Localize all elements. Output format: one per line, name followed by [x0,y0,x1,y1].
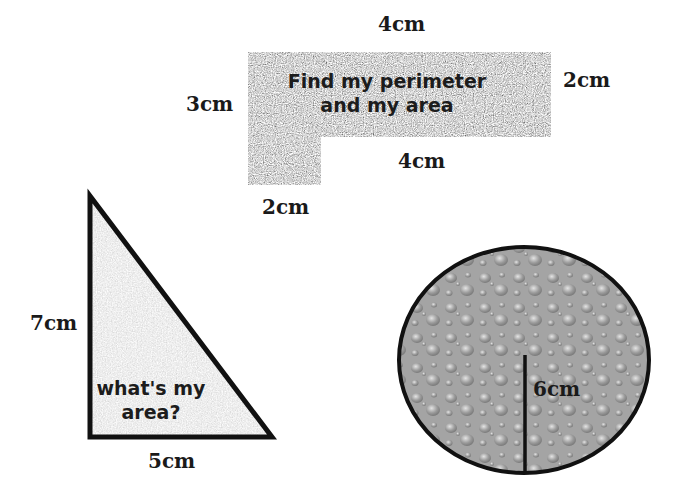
triangle-prompt: what's my area? [96,377,206,425]
circle-radius-label: 6cm [533,379,580,399]
triangle-prompt-line1: what's my [96,377,206,401]
l-shape-prompt-line2: and my area [282,94,492,118]
l-shape-inner-bottom-label: 4cm [398,151,445,171]
l-shape-right-label: 2cm [563,70,610,90]
l-shape-prompt-line1: Find my perimeter [282,70,492,94]
l-shape-prompt: Find my perimeter and my area [282,70,492,118]
l-shape-bottom-label: 2cm [262,197,309,217]
triangle-base-label: 5cm [148,451,195,471]
triangle-prompt-line2: area? [96,401,206,425]
triangle-height-label: 7cm [30,313,77,333]
l-shape-left-label: 3cm [186,94,233,114]
l-shape-top-label: 4cm [378,14,425,34]
